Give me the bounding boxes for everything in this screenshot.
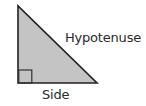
side-label: Side xyxy=(42,88,69,101)
triangle-graphic xyxy=(0,0,146,106)
hypotenuse-label: Hypotenuse xyxy=(65,31,141,44)
right-triangle-diagram: Hypotenuse Side xyxy=(0,0,146,106)
